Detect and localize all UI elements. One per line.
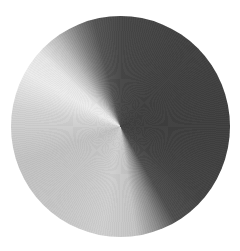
brushed-texture — [11, 16, 230, 237]
metal-disc — [11, 16, 230, 237]
